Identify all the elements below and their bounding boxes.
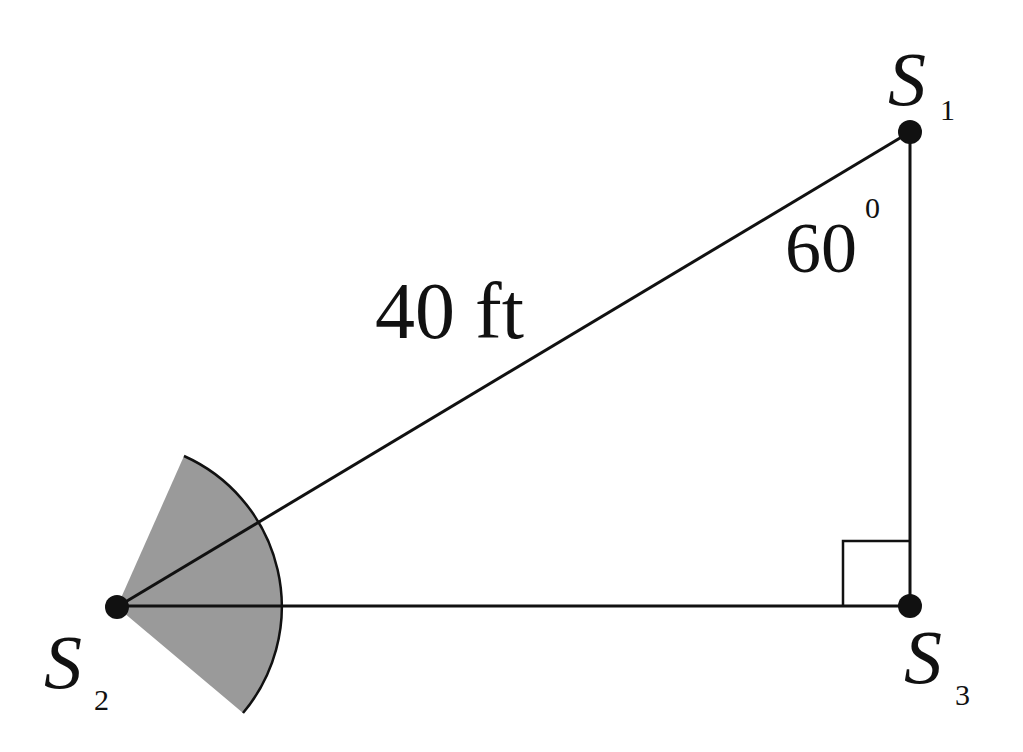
edge-s2-s1 [117, 132, 910, 607]
svg-text:2: 2 [94, 683, 109, 716]
svg-text:S: S [904, 615, 942, 699]
svg-text:0: 0 [865, 191, 880, 224]
svg-text:60: 60 [785, 208, 857, 288]
svg-text:S: S [44, 620, 82, 704]
point-s1 [898, 120, 922, 144]
right-angle-marker [843, 541, 910, 606]
label-s1: S 1 [888, 37, 955, 126]
angle-label: 60 0 [785, 191, 880, 288]
triangle-diagram: S 1 S 2 S 3 60 0 40 ft [0, 0, 1023, 752]
shaded-sector [117, 456, 282, 713]
hypotenuse-length-label: 40 ft [375, 267, 524, 355]
svg-text:S: S [888, 37, 926, 121]
label-s3: S 3 [904, 615, 970, 711]
svg-text:3: 3 [955, 678, 970, 711]
label-s2: S 2 [44, 620, 109, 716]
point-s2 [105, 595, 129, 619]
svg-text:1: 1 [940, 93, 955, 126]
